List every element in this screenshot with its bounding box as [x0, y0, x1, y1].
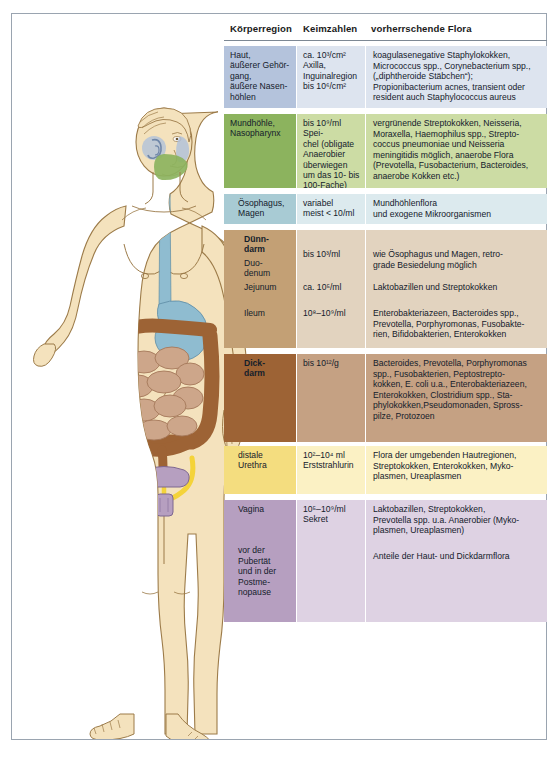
region-cell-jejunum: Jejunum [224, 278, 296, 304]
counts-cell-oesophagus: variabel meist < 10/ml [297, 194, 365, 224]
region-cell-haut: Haut, äußerer Gehör- gang, äußere Nasen-… [224, 46, 296, 108]
region-label-haut: Haut, äußerer Gehör- gang, äußere Nasen-… [224, 46, 296, 105]
counts-label-duenndarm: bis 10³/ml [297, 230, 365, 262]
table-row-duenndarm: Dünn- darm Duo- denum bis 10³/ml wie Öso… [224, 230, 547, 278]
counts-label-dickdarm: bis 10¹²/g [297, 354, 365, 371]
region-label-mundhoehle: Mundhöhle, Nasopharynx [224, 114, 296, 142]
counts-cell-dickdarm: bis 10¹²/g [297, 354, 365, 442]
region-label-duenndarm: Dünn- darm [224, 230, 296, 258]
region-cell-mundhoehle: Mundhöhle, Nasopharynx [224, 114, 296, 188]
counts-label-oesophagus: variabel meist < 10/ml [297, 194, 365, 222]
figure-frame: Körperregion Keimzahlen vorherrschende F… [11, 13, 547, 740]
body-illustration [12, 14, 252, 739]
region-sublabel-vagina-prepubertal: vor der Pubertät und in der Postme- nopa… [224, 517, 296, 600]
feet [90, 714, 212, 739]
region-cell-vagina: Vagina vor der Pubertät und in der Postm… [224, 500, 296, 622]
table-row-vagina: Vagina vor der Pubertät und in der Postm… [224, 500, 547, 622]
counts-label-urethra: 10²–10⁴ ml Erststrahlurin [297, 446, 365, 474]
region-label-ileum: Ileum [224, 304, 296, 321]
flora-cell-dickdarm: Bacteroides, Prevotella, Porphyromonas s… [366, 354, 547, 442]
region-sublabel-duodenum: Duo- denum [224, 258, 296, 278]
flora-label-haut: koagulasenegative Staphylokokken, Microc… [366, 46, 547, 106]
region-cell-dickdarm: Dick- darm [224, 354, 296, 442]
table-header-row: Körperregion Keimzahlen vorherrschende F… [224, 16, 547, 41]
table-row-ileum: Ileum 10⁸–10⁹/ml Enterobakteriazeen, Bac… [224, 304, 547, 348]
column-header-flora: vorherrschende Flora [371, 23, 472, 34]
counts-label-jejunum: ca. 10⁵/ml [297, 278, 365, 295]
region-cell-oesophagus: Ösophagus, Magen [224, 194, 296, 224]
table-row-oesophagus: Ösophagus, Magen variabel meist < 10/ml … [224, 194, 547, 224]
flora-label-vagina: Laktobazillen, Streptokokken, Prevotella… [366, 500, 547, 539]
flora-cell-haut: koagulasenegative Staphylokokken, Microc… [366, 46, 547, 108]
vagina-uterus-organ [139, 467, 189, 488]
counts-cell-urethra: 10²–10⁴ ml Erststrahlurin [297, 446, 365, 494]
flora-cell-urethra: Flora der umgebenden Hautregionen, Strep… [366, 446, 547, 494]
flora-label-duenndarm: wie Ösophagus und Magen, retro- grade Be… [366, 230, 547, 273]
flora-label-oesophagus: Mundhöhlenflora und exogene Mikroorganis… [366, 194, 547, 222]
flora-cell-jejunum: Laktobazillen und Streptokokken [366, 278, 547, 304]
flora-table: Körperregion Keimzahlen vorherrschende F… [224, 14, 547, 739]
region-label-vagina: Vagina [224, 500, 296, 517]
region-cell-ileum: Ileum [224, 304, 296, 348]
region-label-dickdarm: Dick- darm [224, 354, 296, 382]
table-row-jejunum: Jejunum ca. 10⁵/ml Laktobazillen und Str… [224, 278, 547, 304]
flora-cell-oesophagus: Mundhöhlenflora und exogene Mikroorganis… [366, 194, 547, 224]
counts-label-ileum: 10⁸–10⁹/ml [297, 304, 365, 321]
counts-cell-jejunum: ca. 10⁵/ml [297, 278, 365, 304]
flora-cell-ileum: Enterobakteriazeen, Bacteroides spp., Pr… [366, 304, 547, 348]
counts-label-haut: ca. 10³/cm² Axilla, Inguinalregion bis 1… [297, 46, 365, 95]
flora-label-mundhoehle: vergrünende Streptokokken, Neisseria, Mo… [366, 114, 547, 185]
column-header-region: Körperregion [230, 23, 292, 34]
counts-label-vagina: 10⁵–10⁹/ml Sekret [297, 500, 365, 528]
table-row-urethra: distale Urethra 10²–10⁴ ml Erststrahluri… [224, 446, 547, 494]
flora-label-jejunum: Laktobazillen und Streptokokken [366, 278, 547, 296]
table-row-mundhoehle: Mundhöhle, Nasopharynx bis 10⁹/ml Spei- … [224, 114, 547, 188]
region-label-oesophagus: Ösophagus, Magen [224, 194, 296, 222]
table-row-dickdarm: Dick- darm bis 10¹²/g Bacteroides, Prevo… [224, 354, 547, 442]
flora-label-urethra: Flora der umgebenden Hautregionen, Strep… [366, 446, 547, 485]
counts-cell-mundhoehle: bis 10⁹/ml Spei- chel (obligate Anaerobi… [297, 114, 365, 188]
flora-label-ileum: Enterobakteriazeen, Bacteroides spp., Pr… [366, 304, 547, 343]
region-cell-duenndarm: Dünn- darm Duo- denum [224, 230, 296, 278]
flora-cell-vagina: Laktobazillen, Streptokokken, Prevotella… [366, 500, 547, 622]
column-header-counts: Keimzahlen [303, 23, 357, 34]
table-row-haut: Haut, äußerer Gehör- gang, äußere Nasen-… [224, 46, 547, 108]
region-label-jejunum: Jejunum [224, 278, 296, 295]
counts-cell-haut: ca. 10³/cm² Axilla, Inguinalregion bis 1… [297, 46, 365, 108]
region-label-urethra: distale Urethra [224, 446, 296, 474]
flora-cell-duenndarm: wie Ösophagus und Magen, retro- grade Be… [366, 230, 547, 278]
flora-cell-mundhoehle: vergrünende Streptokokken, Neisseria, Mo… [366, 114, 547, 188]
counts-cell-ileum: 10⁸–10⁹/ml [297, 304, 365, 348]
flora-label-dickdarm: Bacteroides, Prevotella, Porphyromonas s… [366, 354, 547, 425]
flora-sublabel-vagina: Anteile der Haut- und Dickdarmflora [366, 539, 547, 565]
region-cell-urethra: distale Urethra [224, 446, 296, 494]
counts-cell-vagina: 10⁵–10⁹/ml Sekret [297, 500, 365, 622]
counts-label-mundhoehle: bis 10⁹/ml Spei- chel (obligate Anaerobi… [297, 114, 365, 188]
counts-cell-duenndarm: bis 10³/ml [297, 230, 365, 278]
